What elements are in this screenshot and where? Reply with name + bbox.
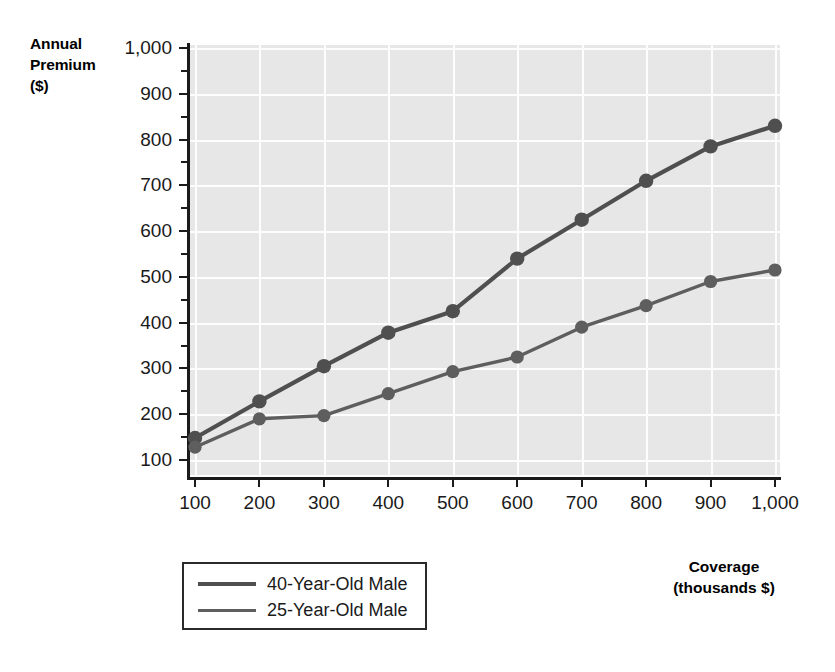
- x-axis-tick: [581, 477, 583, 487]
- gridline-horizontal: [190, 140, 780, 142]
- gridline-horizontal: [190, 94, 780, 96]
- x-axis-tick-label: 800: [630, 492, 662, 514]
- x-axis-tick-label: 1,000: [751, 492, 799, 514]
- gridline-horizontal: [190, 414, 780, 416]
- x-axis-tick-label: 100: [179, 492, 211, 514]
- legend-item-25-year-old-male: 25-Year-Old Male: [198, 597, 407, 623]
- gridline-vertical: [646, 45, 648, 475]
- y-axis-minor-tick: [181, 207, 190, 209]
- y-axis-minor-tick: [181, 161, 190, 163]
- y-axis-tick: [179, 322, 190, 324]
- y-axis-tick-label: 200: [100, 403, 172, 425]
- y-axis-tick-label: 1,000: [100, 37, 172, 59]
- y-axis-tick: [179, 413, 190, 415]
- y-axis-tick-label: 400: [100, 312, 172, 334]
- y-axis-tick-label: 500: [100, 266, 172, 288]
- x-axis-tick-label: 400: [372, 492, 404, 514]
- x-axis-tick: [194, 477, 196, 487]
- x-axis-tick-label: 600: [501, 492, 533, 514]
- legend-item-label: 25-Year-Old Male: [267, 600, 407, 621]
- y-axis-minor-tick: [181, 70, 190, 72]
- x-axis-tick: [452, 477, 454, 487]
- x-axis-line: [187, 477, 781, 480]
- gridline-horizontal: [190, 48, 780, 50]
- y-axis-tick: [179, 93, 190, 95]
- gridline-vertical: [711, 45, 713, 475]
- x-axis-tick-label: 500: [437, 492, 469, 514]
- x-axis-tick-label: 200: [244, 492, 276, 514]
- y-axis-tick-label: 800: [100, 129, 172, 151]
- gridline-horizontal: [190, 185, 780, 187]
- x-axis-title-line-1: Coverage: [618, 556, 830, 577]
- x-axis-tick: [387, 477, 389, 487]
- x-axis-tick: [645, 477, 647, 487]
- gridline-horizontal: [190, 460, 780, 462]
- y-axis-tick: [179, 459, 190, 461]
- gridline-horizontal: [190, 231, 780, 233]
- x-axis-tick-label: 900: [695, 492, 727, 514]
- y-axis-tick-label: 900: [100, 83, 172, 105]
- x-axis-title: Coverage (thousands $): [618, 556, 830, 598]
- x-axis-tick: [774, 477, 776, 487]
- legend-item-label: 40-Year-Old Male: [267, 574, 407, 595]
- y-axis-tick: [179, 47, 190, 49]
- y-axis-tick-label: 100: [100, 449, 172, 471]
- y-axis-tick: [179, 139, 190, 141]
- legend-swatch-line-icon: [198, 609, 256, 612]
- y-axis-tick: [179, 367, 190, 369]
- legend: 40-Year-Old Male 25-Year-Old Male: [182, 562, 427, 630]
- gridline-vertical: [582, 45, 584, 475]
- y-axis-minor-tick: [181, 116, 190, 118]
- gridline-vertical: [195, 45, 197, 475]
- gridline-horizontal: [190, 277, 780, 279]
- x-axis-tick-label: 300: [308, 492, 340, 514]
- legend-item-40-year-old-male: 40-Year-Old Male: [198, 571, 407, 597]
- line-chart: Annual Premium ($) 100200300400500600700…: [0, 0, 835, 672]
- y-axis-tick-label: 700: [100, 174, 172, 196]
- y-axis-minor-tick: [181, 345, 190, 347]
- gridline-vertical: [388, 45, 390, 475]
- y-axis-tick: [179, 230, 190, 232]
- y-axis-minor-tick: [181, 299, 190, 301]
- y-axis-tick: [179, 184, 190, 186]
- y-axis-tick: [179, 276, 190, 278]
- gridline-vertical: [517, 45, 519, 475]
- x-axis-tick-label: 700: [566, 492, 598, 514]
- y-axis-tick-label: 600: [100, 220, 172, 242]
- legend-swatch-line-icon: [198, 582, 256, 586]
- gridline-vertical: [453, 45, 455, 475]
- y-axis-minor-tick: [181, 436, 190, 438]
- y-axis-minor-tick: [181, 253, 190, 255]
- y-axis-tick-label: 300: [100, 357, 172, 379]
- x-axis-tick: [516, 477, 518, 487]
- gridline-vertical: [259, 45, 261, 475]
- gridline-horizontal: [190, 368, 780, 370]
- plot-area: [190, 45, 780, 475]
- y-axis-minor-tick: [181, 390, 190, 392]
- x-axis-tick: [258, 477, 260, 487]
- x-axis-title-line-2: (thousands $): [618, 577, 830, 598]
- x-axis-tick: [710, 477, 712, 487]
- gridline-horizontal: [190, 323, 780, 325]
- gridline-vertical: [775, 45, 777, 475]
- gridline-vertical: [324, 45, 326, 475]
- x-axis-tick: [323, 477, 325, 487]
